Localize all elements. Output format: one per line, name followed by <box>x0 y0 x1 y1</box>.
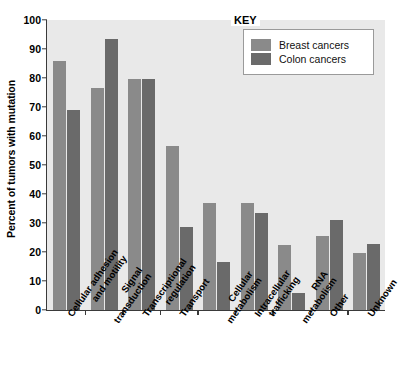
legend-label-colon-cancers: Colon cancers <box>279 53 346 65</box>
bar <box>67 110 80 310</box>
legend-swatch-breast-cancers <box>251 39 271 51</box>
legend-swatch-colon-cancers <box>251 53 271 65</box>
x-axis-labels: Cellular adhesionand motilitySignaltrans… <box>46 313 393 388</box>
legend-item-breast-cancers: Breast cancers <box>251 39 365 51</box>
y-axis-title: Percent of tumors with mutation <box>0 0 22 318</box>
bar-group <box>126 20 158 310</box>
legend-title: KEY <box>231 14 260 26</box>
legend-label-breast-cancers: Breast cancers <box>279 39 349 51</box>
bar <box>203 203 216 310</box>
bar-group <box>201 20 233 310</box>
legend-box: Breast cancers Colon cancers <box>243 29 374 75</box>
bar-group <box>51 20 83 310</box>
legend-item-colon-cancers: Colon cancers <box>251 53 365 65</box>
bar <box>53 61 66 310</box>
y-axis-title-text: Percent of tumors with mutation <box>5 80 17 238</box>
bar <box>353 253 366 310</box>
